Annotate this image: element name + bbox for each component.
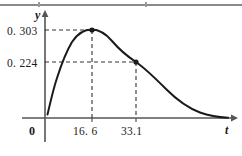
y-axis-arrow <box>42 10 49 17</box>
y-tick-label-0224: 0. 224 <box>7 58 38 70</box>
data-point-maximum <box>89 27 94 32</box>
x-axis-label: t <box>225 124 228 136</box>
x-tick-label-166: 16. 6 <box>73 126 98 138</box>
data-curve <box>48 30 229 118</box>
data-point-inflection <box>133 59 138 64</box>
y-tick-label-0303: 0. 303 <box>7 26 38 38</box>
y-axis-label: y <box>35 9 40 21</box>
x-axis-arrow <box>231 114 238 121</box>
origin-label: 0 <box>29 125 35 137</box>
x-tick-label-331: 33.1 <box>121 126 142 138</box>
figure-container: 0. 303 0. 224 16. 6 33.1 0 y t <box>0 0 242 156</box>
